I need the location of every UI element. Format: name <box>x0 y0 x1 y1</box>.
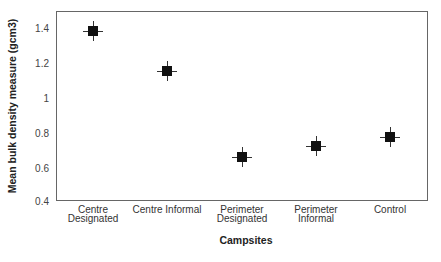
y-tick-label: 0.6 <box>35 163 49 174</box>
data-point-centre-designated <box>83 21 103 41</box>
x-tick-line: Designated <box>68 214 119 223</box>
x-tick-line: Informal <box>294 214 337 223</box>
data-point-centre-informal <box>157 61 177 81</box>
x-tick-label: Control <box>374 205 406 214</box>
y-tick-label: 1.4 <box>35 23 49 34</box>
x-tick-line: Control <box>374 205 406 214</box>
y-tick-label: 0.4 <box>35 196 49 207</box>
data-point-perimeter-informal <box>306 136 326 156</box>
data-point-perimeter-designated <box>232 147 252 167</box>
x-tick-label: Perimeter Designated <box>217 205 268 223</box>
x-tick-line: Centre Informal <box>133 205 202 214</box>
data-point-control <box>380 127 400 147</box>
y-tick-label: 1 <box>43 93 49 104</box>
y-axis-title: Mean bulk density measure (gcm3) <box>6 19 18 193</box>
x-tick-label: Centre Informal <box>133 205 202 214</box>
x-tick-label: Perimeter Informal <box>294 205 337 223</box>
plot-area <box>56 11 428 201</box>
y-tick-label: 0.8 <box>35 128 49 139</box>
x-tick-label: Centre Designated <box>68 205 119 223</box>
y-tick-label: 1.2 <box>35 58 49 69</box>
x-tick-line: Designated <box>217 214 268 223</box>
x-axis-title: Campsites <box>219 234 272 246</box>
